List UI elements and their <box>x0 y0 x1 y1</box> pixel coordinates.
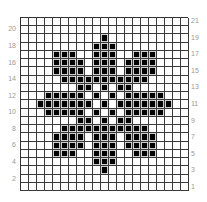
empty-cell <box>45 166 53 174</box>
empty-cell <box>53 18 61 26</box>
filled-cell <box>61 133 69 141</box>
empty-cell <box>29 18 37 26</box>
empty-cell <box>149 34 157 42</box>
empty-cell <box>165 43 173 51</box>
filled-cell <box>133 92 141 100</box>
empty-cell <box>157 84 165 92</box>
filled-cell <box>37 100 45 108</box>
filled-cell <box>69 109 77 117</box>
filled-cell <box>109 109 117 117</box>
empty-cell <box>37 109 45 117</box>
empty-cell <box>173 84 181 92</box>
empty-cell <box>165 175 173 183</box>
filled-cell <box>133 59 141 67</box>
filled-cell <box>77 84 85 92</box>
filled-cell <box>117 125 125 133</box>
empty-cell <box>29 133 37 141</box>
empty-cell <box>117 142 125 150</box>
empty-cell <box>157 150 165 158</box>
empty-cell <box>29 92 37 100</box>
empty-cell <box>141 43 149 51</box>
empty-cell <box>133 18 141 26</box>
empty-cell <box>181 18 189 26</box>
empty-cell <box>157 183 165 191</box>
empty-cell <box>101 26 109 34</box>
empty-cell <box>173 18 181 26</box>
empty-cell <box>69 43 77 51</box>
filled-cell <box>69 59 77 67</box>
empty-cell <box>29 67 37 75</box>
empty-cell <box>85 150 93 158</box>
filled-cell <box>149 67 157 75</box>
empty-cell <box>165 26 173 34</box>
filled-cell <box>77 92 85 100</box>
filled-cell <box>85 117 93 125</box>
filled-cell <box>141 133 149 141</box>
filled-cell <box>101 142 109 150</box>
filled-cell <box>93 59 101 67</box>
empty-cell <box>157 59 165 67</box>
filled-cell <box>85 76 93 84</box>
empty-cell <box>29 158 37 166</box>
filled-cell <box>117 76 125 84</box>
filled-cell <box>149 59 157 67</box>
filled-cell <box>93 158 101 166</box>
empty-cell <box>117 175 125 183</box>
empty-cell <box>157 26 165 34</box>
empty-cell <box>173 59 181 67</box>
empty-cell <box>157 117 165 125</box>
empty-cell <box>173 34 181 42</box>
filled-cell <box>125 59 133 67</box>
filled-cell <box>109 43 117 51</box>
empty-cell <box>181 92 189 100</box>
filled-cell <box>69 67 77 75</box>
empty-cell <box>45 43 53 51</box>
filled-cell <box>77 142 85 150</box>
filled-cell <box>53 51 61 59</box>
empty-cell <box>157 175 165 183</box>
empty-cell <box>45 117 53 125</box>
empty-cell <box>133 84 141 92</box>
empty-cell <box>93 175 101 183</box>
empty-cell <box>37 51 45 59</box>
empty-cell <box>141 175 149 183</box>
filled-cell <box>61 100 69 108</box>
empty-cell <box>45 34 53 42</box>
empty-cell <box>85 142 93 150</box>
empty-cell <box>173 51 181 59</box>
empty-cell <box>37 84 45 92</box>
empty-cell <box>77 26 85 34</box>
empty-cell <box>21 175 29 183</box>
empty-cell <box>29 100 37 108</box>
empty-cell <box>85 18 93 26</box>
empty-cell <box>85 109 93 117</box>
empty-cell <box>181 84 189 92</box>
empty-cell <box>61 84 69 92</box>
empty-cell <box>181 150 189 158</box>
filled-cell <box>125 117 133 125</box>
empty-cell <box>93 100 101 108</box>
empty-cell <box>21 51 29 59</box>
filled-cell <box>149 100 157 108</box>
filled-cell <box>141 100 149 108</box>
empty-cell <box>37 125 45 133</box>
empty-cell <box>93 117 101 125</box>
filled-cell <box>125 133 133 141</box>
empty-cell <box>37 175 45 183</box>
filled-cell <box>133 125 141 133</box>
filled-cell <box>125 125 133 133</box>
empty-cell <box>53 166 61 174</box>
empty-cell <box>77 158 85 166</box>
row-label-20: 20 <box>4 25 16 33</box>
empty-cell <box>165 166 173 174</box>
filled-cell <box>69 125 77 133</box>
empty-cell <box>45 59 53 67</box>
filled-cell <box>101 133 109 141</box>
empty-cell <box>173 166 181 174</box>
row-label-12: 12 <box>4 92 16 100</box>
filled-cell <box>133 76 141 84</box>
filled-cell <box>141 92 149 100</box>
empty-cell <box>37 26 45 34</box>
filled-cell <box>133 100 141 108</box>
empty-cell <box>85 133 93 141</box>
